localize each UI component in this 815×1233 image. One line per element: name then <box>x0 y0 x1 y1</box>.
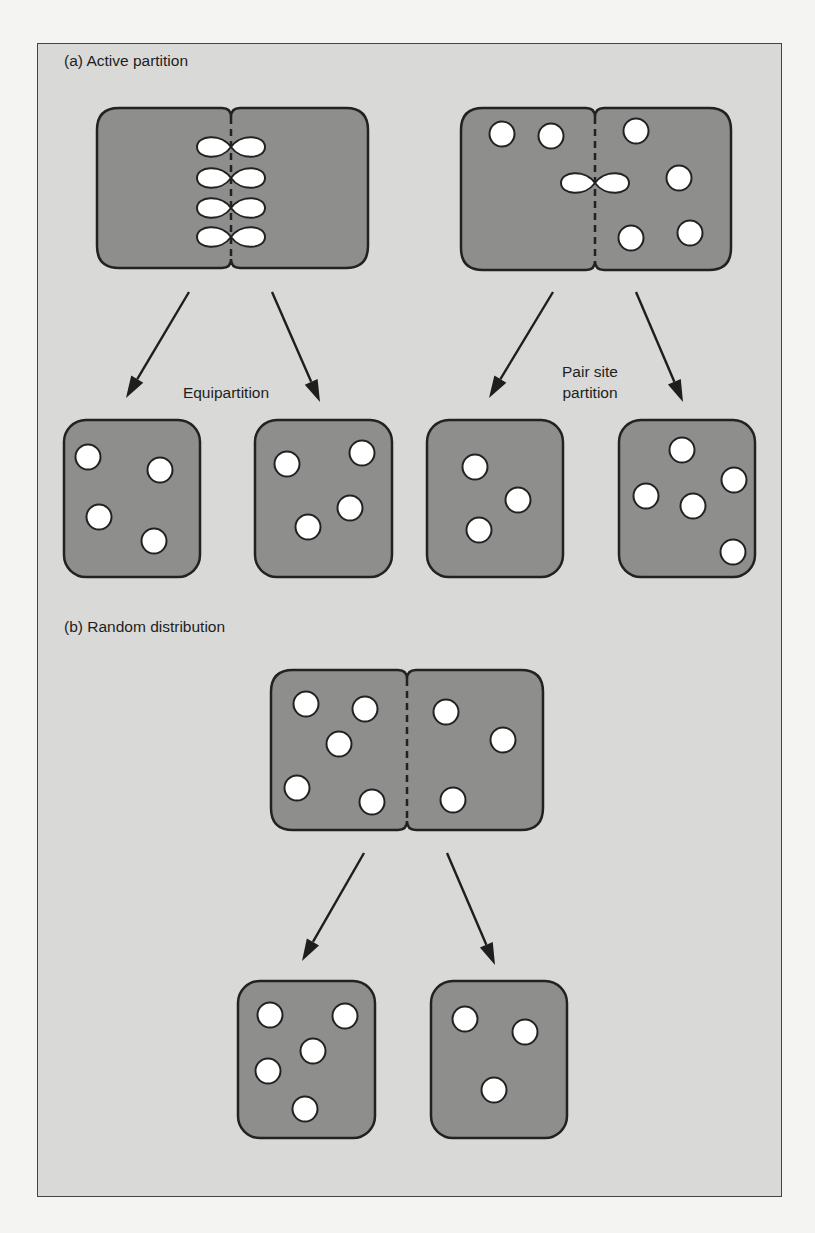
particle-icon <box>338 496 363 521</box>
arrow-pair-left-icon <box>489 292 553 398</box>
particle-icon <box>360 790 385 815</box>
particle-icon <box>513 1020 538 1045</box>
particle-icon <box>301 1039 326 1064</box>
pairsite-daughter-1 <box>427 420 563 577</box>
arrow-random-left-icon <box>302 853 364 961</box>
panel-a-title: (a) Active partition <box>64 52 188 70</box>
pairsite-daughter-2 <box>619 420 755 577</box>
particle-icon <box>624 119 649 144</box>
daughter-cell-outline <box>427 420 563 577</box>
particle-icon <box>453 1007 478 1032</box>
particle-icon <box>296 515 321 540</box>
particle-icon <box>506 488 531 513</box>
particle-icon <box>678 221 703 246</box>
partition-diagram <box>0 0 815 1233</box>
particle-icon <box>634 484 659 509</box>
particle-icon <box>434 700 459 725</box>
arrow-equi-left-icon <box>126 292 189 398</box>
particle-icon <box>256 1059 281 1084</box>
particle-icon <box>721 540 746 565</box>
particle-icon <box>285 776 310 801</box>
particle-icon <box>667 166 692 191</box>
random-daughter-2 <box>431 981 567 1138</box>
particle-icon <box>482 1078 507 1103</box>
random-parent <box>271 670 543 830</box>
particle-icon <box>275 452 300 477</box>
arrow-random-right-icon <box>447 853 495 965</box>
arrow-equi-right-icon <box>272 292 320 402</box>
particle-icon <box>333 1004 358 1029</box>
particle-icon <box>327 732 352 757</box>
particle-icon <box>87 505 112 530</box>
equipartition-daughter-2 <box>255 420 392 577</box>
particle-icon <box>463 455 488 480</box>
pair-site-label-line2: partition <box>562 382 617 403</box>
particle-icon <box>441 788 466 813</box>
dividing-cell-outline <box>97 108 368 268</box>
pair-site-label-line1: Pair site <box>562 361 618 382</box>
particle-icon <box>467 518 492 543</box>
daughter-cell-outline <box>431 981 567 1138</box>
particle-icon <box>490 122 515 147</box>
equipartition-label: Equipartition <box>183 382 269 403</box>
particle-icon <box>350 441 375 466</box>
particle-icon <box>619 226 644 251</box>
particle-icon <box>681 494 706 519</box>
particle-icon <box>76 445 101 470</box>
daughter-cell-outline <box>64 420 200 577</box>
particle-icon <box>258 1003 283 1028</box>
active-equipartition-parent <box>97 108 368 268</box>
particle-icon <box>293 1097 318 1122</box>
particle-icon <box>722 468 747 493</box>
panel-b-title: (b) Random distribution <box>64 618 225 636</box>
particle-icon <box>142 529 167 554</box>
active-pairsite-parent <box>461 108 731 270</box>
particle-icon <box>670 438 695 463</box>
particle-icon <box>539 124 564 149</box>
particle-icon <box>294 692 319 717</box>
particle-icon <box>148 458 173 483</box>
arrow-pair-right-icon <box>636 292 683 402</box>
random-daughter-1 <box>238 981 375 1138</box>
equipartition-daughter-1 <box>64 420 200 577</box>
particle-icon <box>353 697 378 722</box>
particle-icon <box>491 728 516 753</box>
